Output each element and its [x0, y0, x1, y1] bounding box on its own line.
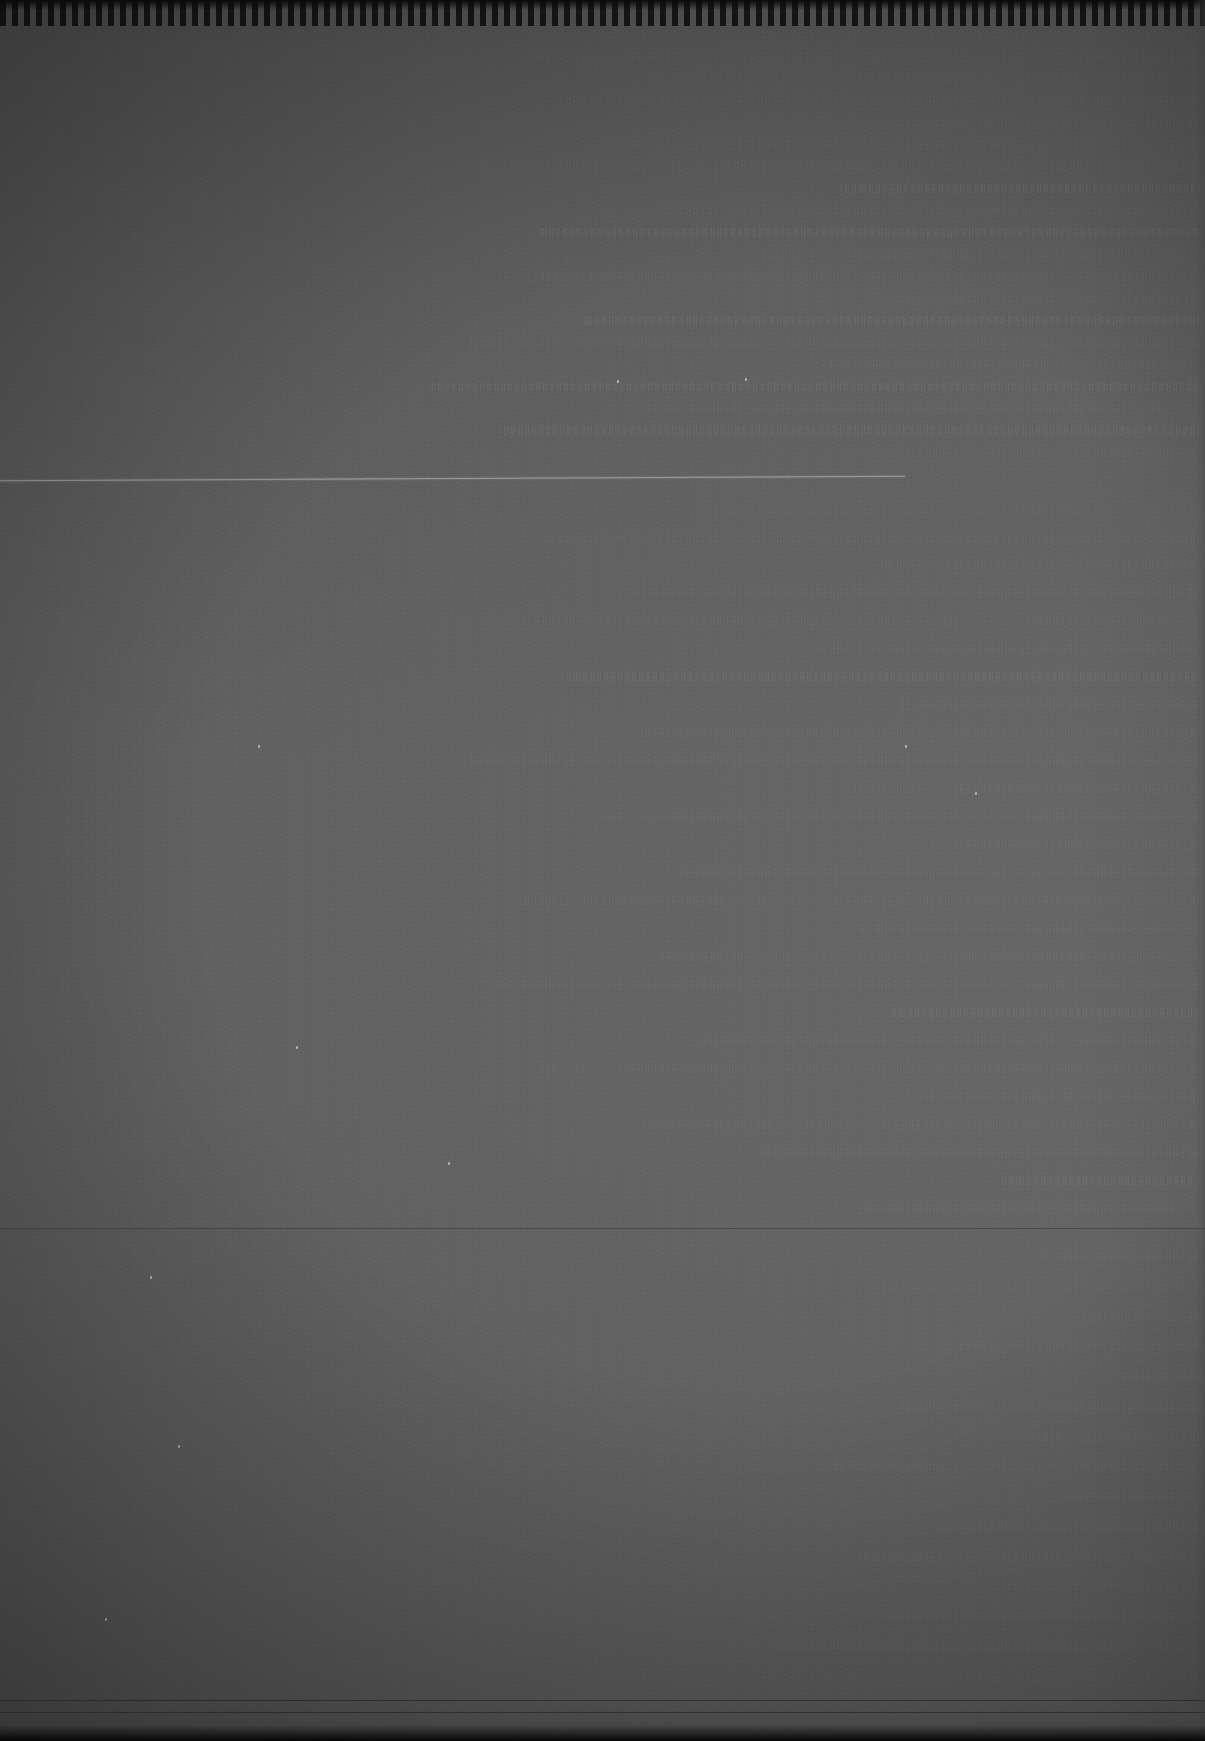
text-line — [600, 1672, 1200, 1681]
text-line — [520, 52, 1200, 61]
text-line — [500, 980, 1200, 989]
dust-speck — [975, 792, 977, 795]
right-page-edge — [1193, 0, 1205, 1741]
text-line — [920, 1092, 1200, 1101]
text-line — [660, 952, 1200, 961]
text-line — [900, 294, 1200, 303]
text-line — [930, 840, 1200, 849]
text-line — [600, 812, 1200, 821]
text-line — [760, 1148, 1200, 1157]
dust-speck — [296, 1046, 298, 1049]
text-line — [860, 448, 1200, 457]
top-page-edge — [0, 0, 1205, 26]
text-line — [500, 272, 1200, 281]
text-line — [430, 382, 1200, 391]
dust-speck — [617, 380, 619, 383]
text-line — [680, 868, 1200, 877]
text-line — [960, 1342, 1200, 1351]
text-line — [470, 338, 1200, 347]
text-line — [640, 1120, 1200, 1129]
text-line — [660, 206, 1200, 215]
text-line — [620, 140, 1200, 149]
text-line — [1080, 1312, 1200, 1321]
dust-speck — [745, 378, 747, 381]
text-line — [580, 316, 1200, 325]
text-line — [560, 96, 1200, 105]
secondary-separator-rule — [0, 1228, 1205, 1229]
text-line — [600, 30, 1200, 39]
text-line — [860, 924, 1200, 933]
text-line — [1000, 1176, 1200, 1185]
text-line — [640, 728, 1200, 737]
text-line — [1120, 1372, 1200, 1381]
text-line — [640, 404, 1200, 413]
text-line — [780, 1642, 1200, 1651]
text-line — [540, 1064, 1200, 1073]
text-line — [860, 1204, 1200, 1213]
text-line — [700, 1036, 1200, 1045]
text-line — [520, 896, 1200, 905]
text-line — [1060, 1492, 1200, 1501]
text-line — [880, 1612, 1200, 1621]
document-page: A very dark, near-black photograph of a … — [0, 0, 1205, 1741]
text-line — [540, 228, 1200, 237]
text-line — [890, 1008, 1200, 1017]
text-line — [620, 588, 1200, 597]
lower-separator-rule — [0, 1700, 1205, 1701]
dust-speck — [150, 1276, 152, 1279]
text-line — [1040, 1252, 1200, 1261]
text-line — [1020, 1432, 1200, 1441]
dust-speck — [905, 745, 907, 748]
lower-separator-rule-2 — [0, 1712, 1205, 1713]
text-line — [900, 700, 1200, 709]
text-line — [820, 644, 1200, 653]
bottom-page-edge — [0, 1725, 1205, 1741]
dust-speck — [448, 1162, 450, 1165]
text-line — [760, 250, 1200, 259]
text-line — [940, 1522, 1200, 1531]
text-line — [900, 1402, 1200, 1411]
text-line — [880, 560, 1200, 569]
dust-speck — [178, 1445, 180, 1448]
text-line — [480, 162, 1200, 171]
text-line — [700, 506, 1200, 515]
text-line — [480, 616, 1200, 625]
primary-separator-rule — [0, 476, 905, 481]
text-line — [470, 756, 1200, 765]
text-line — [880, 1282, 1200, 1291]
text-line — [540, 534, 1200, 543]
text-line — [560, 672, 1200, 681]
text-line — [1000, 1582, 1200, 1591]
text-line — [820, 1462, 1200, 1471]
text-line — [860, 1552, 1200, 1561]
text-line — [840, 784, 1200, 793]
text-line — [880, 118, 1200, 127]
text-line — [500, 426, 1200, 435]
dust-speck — [105, 1618, 107, 1621]
dust-speck — [258, 745, 260, 748]
text-line — [840, 184, 1200, 193]
text-line — [700, 74, 1200, 83]
text-line — [820, 360, 1200, 369]
